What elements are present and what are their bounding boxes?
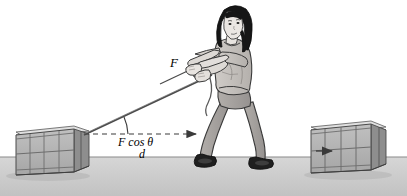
woman-figure: [186, 6, 274, 170]
rope: [84, 74, 212, 135]
physics-figure: F F cos θ d: [0, 0, 407, 196]
horizontal-force-component-label: F cos θ: [118, 136, 153, 148]
angle-arc: [124, 117, 128, 134]
force-label: F: [170, 56, 178, 69]
displacement-label: d: [139, 148, 145, 160]
figure-canvas: [0, 0, 407, 196]
left-crate: [6, 126, 90, 181]
